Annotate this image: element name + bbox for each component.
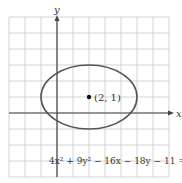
x-axis-label: x (176, 108, 182, 119)
y-axis-arrow-icon (55, 15, 60, 21)
x-axis-arrow-icon (168, 111, 174, 116)
center-point (87, 95, 91, 99)
equation-label: 4x² + 9y² − 16x − 18y − 11 = 0 (49, 156, 182, 166)
ellipse-diagram: (2, 1) x y 4x² + 9y² − 16x − 18y − 11 = … (0, 0, 182, 183)
center-label: (2, 1) (94, 92, 121, 103)
y-axis-label: y (53, 4, 60, 15)
